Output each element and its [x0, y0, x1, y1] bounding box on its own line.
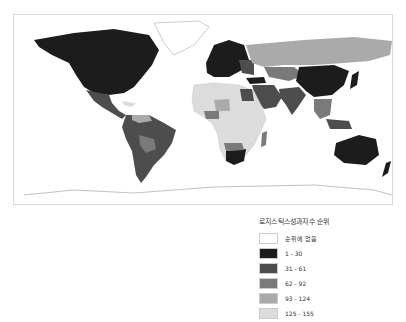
legend-item: 93 - 124: [259, 291, 330, 306]
world-map: [13, 14, 393, 205]
legend-swatch: [259, 278, 278, 289]
legend-swatch: [259, 248, 278, 259]
legend-label: 순위에 없음: [285, 234, 317, 243]
legend-swatch: [259, 263, 278, 274]
world-map-graphic: [14, 15, 394, 206]
legend-swatch: [259, 293, 278, 304]
legend-label: 93 - 124: [285, 295, 310, 302]
legend-item: 125 - 155: [259, 306, 330, 321]
legend-title: 로지스틱스성과지수 순위: [259, 216, 330, 226]
legend-item: 31 - 61: [259, 261, 330, 276]
legend-item: 62 - 92: [259, 276, 330, 291]
legend-swatch: [259, 233, 278, 244]
legend-label: 31 - 61: [285, 265, 306, 272]
legend-label: 125 - 155: [285, 310, 314, 317]
map-legend: 로지스틱스성과지수 순위 순위에 없음 1 - 30 31 - 61 62 - …: [259, 216, 330, 321]
legend-swatch: [259, 308, 278, 319]
legend-label: 62 - 92: [285, 280, 306, 287]
legend-item: 순위에 없음: [259, 231, 330, 246]
legend-item: 1 - 30: [259, 246, 330, 261]
legend-label: 1 - 30: [285, 250, 302, 257]
